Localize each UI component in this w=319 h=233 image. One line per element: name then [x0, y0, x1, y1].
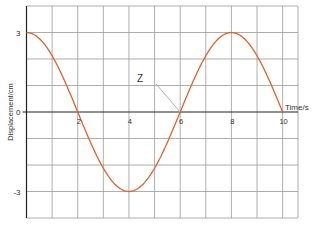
displacement-time-chart: Z Time/s Displacement/cm 246810 30-3	[0, 0, 319, 233]
annotation-leader-line	[156, 84, 180, 112]
x-tick-label: 6	[179, 117, 183, 126]
x-tick-label: 4	[128, 117, 132, 126]
x-tick-label: 8	[230, 117, 234, 126]
y-tick-label: 3	[16, 29, 21, 38]
y-tick-label: -3	[13, 188, 21, 197]
annotation-label-z: Z	[137, 73, 143, 84]
y-tick-label: 0	[16, 108, 21, 117]
y-axis-label: Displacement/cm	[6, 83, 15, 141]
x-tick-label: 10	[279, 117, 287, 126]
x-tick-label: 2	[77, 117, 81, 126]
x-tick-labels: 246810	[77, 117, 288, 126]
x-axis-label: Time/s	[285, 103, 309, 112]
